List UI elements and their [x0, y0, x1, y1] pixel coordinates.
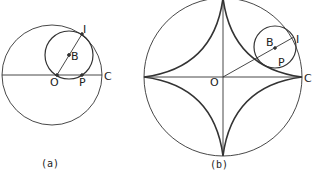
- label-P-b: P: [278, 56, 285, 69]
- figure-b: [144, 0, 302, 156]
- diagram-canvas: I B O P C (a) I B O P C (b): [0, 0, 312, 176]
- caption-a: (a): [41, 158, 59, 169]
- figure-a: [2, 25, 102, 125]
- label-O-b: O: [210, 76, 219, 89]
- label-C-a: C: [104, 70, 112, 83]
- caption-b: (b): [210, 159, 228, 170]
- label-B-a: B: [71, 50, 79, 63]
- label-P-a: P: [79, 76, 86, 89]
- label-B-b: B: [266, 36, 274, 49]
- point-B-b: [274, 47, 277, 50]
- point-B-a: [68, 54, 71, 57]
- label-I-a: I: [83, 23, 86, 36]
- label-I-b: I: [296, 33, 299, 46]
- label-C-b: C: [304, 72, 312, 85]
- label-O-a: O: [50, 76, 59, 89]
